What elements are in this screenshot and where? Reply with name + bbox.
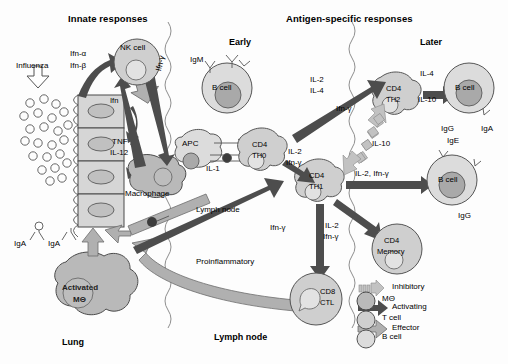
macrophage-nucleus (154, 168, 172, 186)
label-inhibit-ifng: Ifn-γ (336, 105, 352, 113)
arrow-effector-diagonal-shaft (128, 194, 210, 235)
label-th0-th1-ifng: Ifn-γ (286, 159, 302, 167)
label-lymph-node-bottom: Lymph node (214, 333, 267, 342)
label-th1-b-signal: IL-2, Ifn-γ (355, 170, 389, 178)
label-th1-th: TH1 (309, 183, 323, 191)
arrow-th1-to-memory (333, 199, 382, 241)
label-iga-left: IgA (14, 240, 26, 248)
label-activated-mac-2: MΘ (73, 296, 86, 304)
legend-label-t-cell: T cell (382, 314, 401, 322)
label-b-later-igg: IgG (441, 125, 454, 133)
label-activated-mac-1: Activated (62, 284, 98, 292)
arrow-effector-into-epithelium-diagonal (105, 225, 131, 243)
label-th1-down-ifng: Ifn-γ (323, 233, 339, 241)
epithelium-cilia (74, 95, 79, 237)
label-memory: Memory (377, 248, 404, 256)
label-memory-cd4: CD4 (384, 237, 399, 245)
label-tnf: TNF (112, 138, 128, 146)
label-th1-down-il2: IL-2 (325, 222, 339, 230)
label-b-igg: IgG (458, 212, 471, 220)
iga-antibodies (30, 222, 76, 240)
label-th0-th2-il4: IL-4 (310, 87, 324, 95)
label-b-cell-later: B cell (455, 84, 475, 92)
label-th2-b-il4: IL-4 (420, 70, 434, 78)
arrow-th1-to-b-cell (346, 176, 433, 194)
label-b-later-iga: IgA (481, 125, 493, 133)
influenza-virions (20, 95, 72, 185)
nk-cell-nucleus (126, 60, 146, 80)
diagram-canvas: Innate responses Antigen-specific respon… (0, 0, 508, 364)
label-th2-cd4: CD4 (386, 85, 401, 93)
label-ifn-beta: Ifn-β (70, 62, 86, 70)
label-ctl-cd8: CD8 (320, 288, 335, 296)
label-macrophage: Macrophage (125, 190, 169, 198)
epithelium (74, 95, 125, 237)
label-th0-th: TH0 (252, 152, 266, 160)
label-inhibit-il10: IL-10 (372, 140, 390, 148)
label-b-cell-igg: B cell (438, 176, 458, 184)
label-th0-th2-il2: IL-2 (310, 76, 324, 84)
legend-label-b-cell: B cell (382, 333, 402, 341)
label-ifn-gamma-effector: Ifn-γ (270, 224, 286, 232)
phase-later: Later (420, 38, 442, 47)
label-lymph-node-mid: Lymph node (196, 206, 240, 214)
phase-early: Early (229, 38, 251, 47)
label-b-later-ige: IgE (447, 137, 459, 145)
label-th2-b-il10: IL-10 (418, 96, 436, 104)
header-antigen-specific: Antigen-specific responses (286, 14, 413, 24)
label-apc: APC (182, 140, 198, 148)
label-iga-right: IgA (48, 240, 60, 248)
b-cell-later-surface-ig (483, 108, 490, 115)
label-ifn-epithelium: Ifn (110, 97, 118, 105)
apc-nucleus (183, 153, 199, 169)
label-th0-cd4: CD4 (252, 141, 267, 149)
label-proinflammatory: Proinflammatory (196, 258, 254, 266)
label-lung: Lung (62, 338, 84, 347)
label-ctl: CTL (320, 299, 334, 307)
header-innate: Innate responses (68, 14, 148, 24)
label-influenza: Influenza (16, 62, 48, 70)
label-b-cell-early: B cell (212, 84, 232, 92)
arrow-th1-to-ctl (310, 204, 330, 280)
label-th2-th: TH2 (386, 96, 400, 104)
legend-label-activating: Activating (392, 303, 427, 311)
label-igm: IgM (190, 56, 203, 64)
legend-label-inhibitory: Inhibitory (392, 283, 424, 291)
label-il1: IL-1 (206, 165, 220, 173)
label-nk-cell: NK cell (120, 44, 145, 52)
legend-inhibitory-icon (359, 280, 384, 296)
legend-label-macrophage: MΘ (382, 295, 395, 303)
label-ifn-alpha: Ifn-α (70, 50, 86, 58)
label-il12: IL-12 (110, 149, 128, 157)
label-th0-th1-il2: IL-2 (288, 148, 302, 156)
label-th1-cd4: CD4 (309, 172, 324, 180)
